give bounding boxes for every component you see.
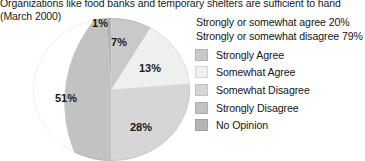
page-title: Organizations like food banks and tempor… [0,0,365,10]
chart-legend: Strongly Agree Somewhat Agree Somewhat D… [195,46,365,134]
legend-swatch-icon [195,49,208,61]
legend-item-somewhat-disagree[interactable]: Somewhat Disagree [195,81,365,99]
legend-label: Strongly Agree [216,49,284,61]
legend-swatch-icon [195,119,208,131]
pie-label-1: 1% [92,18,108,29]
legend-label: Strongly Disagree [216,102,299,114]
pie-label-13: 13% [139,62,161,74]
legend-item-strongly-agree[interactable]: Strongly Agree [195,46,365,64]
summary-agree: Strongly or somewhat agree 20% [196,16,365,30]
legend-item-somewhat-agree[interactable]: Somewhat Agree [195,64,365,82]
legend-swatch-icon [195,84,208,96]
pie-label-28: 28% [130,121,152,133]
pie-slice-strongly-disagree [64,18,111,161]
legend-item-no-opinion[interactable]: No Opinion [195,116,365,134]
summary-block: Strongly or somewhat agree 20% Strongly … [196,16,365,43]
legend-label: Somewhat Disagree [216,84,310,96]
legend-item-strongly-disagree[interactable]: Strongly Disagree [195,99,365,117]
pie-label-51: 51% [55,92,77,104]
summary-disagree: Strongly or somewhat disagree 79% [196,30,365,44]
pie-slices [64,18,190,161]
legend-label: No Opinion [216,119,268,131]
pie-label-7: 7% [111,36,127,48]
pie-chart: 1% 7% 13% 28% 51% [33,18,190,161]
legend-swatch-icon [195,66,208,78]
legend-swatch-icon [195,102,208,114]
pie-chart-svg: 1% 7% 13% 28% 51% [33,18,190,161]
legend-label: Somewhat Agree [216,66,295,78]
